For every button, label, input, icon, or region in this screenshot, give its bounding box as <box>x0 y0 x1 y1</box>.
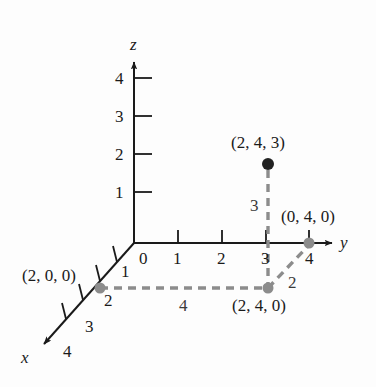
x-tick-1 <box>113 246 117 262</box>
x-tick-3 <box>79 284 83 300</box>
x-tick-4 <box>62 303 66 319</box>
point-label-0-4-0: (0, 4, 0) <box>281 208 335 225</box>
dimension-label-along-x: 2 <box>288 274 297 291</box>
z-axis <box>134 62 152 243</box>
y-tick-label-1: 1 <box>173 250 182 267</box>
point-2-4-3 <box>262 158 274 170</box>
z-axis-label: z <box>130 36 137 53</box>
point-2-4-0 <box>263 283 274 294</box>
y-axis-label: y <box>340 234 348 251</box>
guide-lines <box>100 170 309 288</box>
z-tick-label-1: 1 <box>115 184 124 201</box>
point-label-2-4-3: (2, 4, 3) <box>231 134 285 151</box>
x-tick-label-4: 4 <box>63 343 72 360</box>
y-tick-label-4: 4 <box>305 250 314 267</box>
y-tick-label-3: 3 <box>261 250 270 267</box>
coordinate-diagram: z y x 4 3 2 1 0 1 2 3 4 1 2 3 4 (2, 4, 3… <box>0 0 376 387</box>
x-tick-label-1: 1 <box>121 263 130 280</box>
axes-and-lines-svg <box>0 0 376 387</box>
dimension-label-height: 3 <box>250 197 259 214</box>
point-label-2-4-0: (2, 4, 0) <box>232 297 286 314</box>
x-tick-label-2: 2 <box>104 292 113 309</box>
y-tick-label-2: 2 <box>217 250 226 267</box>
y-axis <box>134 230 332 243</box>
x-axis-label: x <box>21 349 29 366</box>
z-tick-label-2: 2 <box>115 146 124 163</box>
point-0-4-0 <box>304 238 315 249</box>
z-tick-label-3: 3 <box>115 108 124 125</box>
dimension-label-along-y: 4 <box>179 297 188 314</box>
x-tick-label-3: 3 <box>85 318 94 335</box>
y-tick-label-0: 0 <box>139 250 148 267</box>
z-tick-label-4: 4 <box>115 70 124 87</box>
x-tick-2 <box>96 265 100 281</box>
point-label-2-0-0: (2, 0, 0) <box>22 267 76 284</box>
